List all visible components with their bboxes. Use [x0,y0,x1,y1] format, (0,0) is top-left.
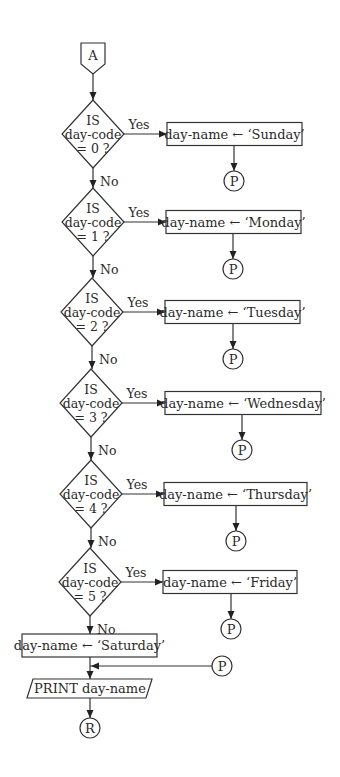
arrowhead-down-icon [239,432,246,440]
decision-text-variable: day-code [63,487,120,502]
arrowhead-left-icon [91,663,99,670]
no-label: No [100,174,118,189]
decision-text-is: IS [84,473,98,488]
decision-text-is: IS [86,113,100,128]
yes-label: Yes [126,477,148,492]
arrowhead-down-icon [88,452,95,460]
no-label: No [97,622,115,637]
arrowhead-down-icon [87,671,94,679]
output-text: PRINT day-name [34,681,146,696]
yes-label: Yes [128,205,150,220]
process-box-text: day-name ← ‘Wednesday’ [160,396,326,411]
arrowhead-down-icon [90,270,97,278]
no-label: No [99,352,117,367]
page-connector-P-label: P [238,443,247,458]
arrowhead-down-icon [233,523,240,531]
no-label: No [98,534,116,549]
arrowhead-down-icon [90,92,97,100]
arrowhead-down-icon [228,611,235,619]
decision-text-is: IS [85,291,99,306]
arrowhead-down-icon [230,341,237,349]
page-connector-P-label: P [232,534,241,549]
page-connector-P-label: P [229,352,238,367]
decision-text-variable: day-code [65,215,122,230]
decision-text-variable: day-code [63,396,120,411]
page-connector-P-label: P [230,174,239,189]
decision-text-condition: = 3 ? [74,410,107,425]
arrowhead-down-icon [90,180,97,188]
decision-text-condition: = 5 ? [73,589,106,604]
decision-text-variable: day-code [65,127,122,142]
decision-text-is: IS [86,201,100,216]
yes-label: Yes [128,117,150,132]
arrowhead-down-icon [87,710,94,718]
decision-text-condition: = 1 ? [76,229,109,244]
flowchart: AISday-code= 0 ?Yesday-name ← ‘Sunday’PN… [0,0,340,777]
arrowhead-right-icon [155,579,163,586]
arrowhead-down-icon [88,540,95,548]
no-label: No [98,443,116,458]
arrowhead-down-icon [231,163,238,171]
decision-text-variable: day-code [64,305,121,320]
end-connector-R-label: R [85,721,96,736]
no-label: No [100,262,118,277]
arrowhead-down-icon [230,251,237,259]
process-box-text: day-name ← ‘Friday’ [163,575,297,590]
process-box-text: day-name ← ‘Thursday’ [159,487,312,502]
arrowhead-down-icon [89,361,96,369]
process-box-text: day-name ← ‘Sunday’ [164,127,304,142]
flowchart-shapes [22,43,321,738]
decision-text-is: IS [84,382,98,397]
decision-text-variable: day-code [62,575,119,590]
arrowhead-down-icon [87,626,94,634]
default-process-box-text: day-name ← ‘Saturday’ [14,638,165,653]
start-connector-label: A [87,48,98,63]
page-connector-P-label: P [229,262,238,277]
page-connector-P-merge-label: P [218,659,227,674]
decision-text-condition: = 4 ? [74,501,107,516]
yes-label: Yes [126,386,148,401]
decision-text-is: IS [83,561,97,576]
decision-text-condition: = 0 ? [76,141,109,156]
process-box-text: day-name ← ‘Tuesday’ [159,305,305,320]
yes-label: Yes [125,565,147,580]
decision-text-condition: = 2 ? [75,319,108,334]
process-box-text: day-name ← ‘Monday’ [161,215,305,230]
yes-label: Yes [127,295,149,310]
page-connector-P-label: P [227,622,236,637]
